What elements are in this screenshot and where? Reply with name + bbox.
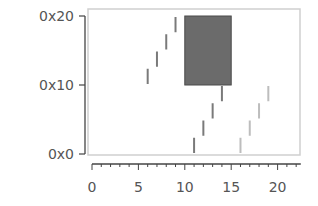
y-tick-label: 0x20 bbox=[39, 8, 74, 24]
x-tick-label: 15 bbox=[222, 179, 240, 195]
highlight-rectangle bbox=[185, 16, 231, 85]
y-tick-label: 0x10 bbox=[39, 77, 74, 93]
x-axis: 05101520 bbox=[88, 164, 301, 195]
plot-area bbox=[148, 16, 269, 153]
x-tick-label: 20 bbox=[269, 179, 287, 195]
x-tick-label: 10 bbox=[176, 179, 194, 195]
x-tick-label: 5 bbox=[134, 179, 143, 195]
chart: 0x00x100x20 05101520 bbox=[0, 0, 318, 206]
y-axis: 0x00x100x20 bbox=[39, 8, 85, 162]
y-tick-label: 0x0 bbox=[48, 146, 74, 162]
x-tick-label: 0 bbox=[88, 179, 97, 195]
